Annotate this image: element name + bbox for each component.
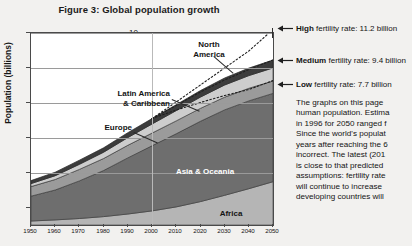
gridline-year-2000 bbox=[152, 33, 153, 225]
callout-medium-bold: Medium bbox=[296, 56, 326, 65]
body-paragraph-line-6: incorrect. The latest (201 bbox=[296, 150, 412, 160]
callout-low-rest: fertility rate: 7.7 billion bbox=[312, 80, 392, 89]
region-label-africa: Africa bbox=[196, 209, 266, 219]
x-tick-2050: 2050 bbox=[255, 227, 289, 234]
body-paragraph-line-1: The graphs on this page bbox=[296, 98, 412, 108]
region-label-latin-america-line2: & Caribbean bbox=[123, 99, 170, 108]
body-paragraph-line-4: Since the world's populat bbox=[296, 129, 412, 139]
region-label-latin-america-line1: Latin America bbox=[117, 89, 170, 98]
figure-title: Figure 3: Global population growth bbox=[0, 4, 278, 15]
body-paragraph-line-10: developing countries will bbox=[296, 192, 412, 202]
arrow-left-icon-high bbox=[277, 24, 293, 33]
region-label-north-america-line1: North bbox=[198, 40, 219, 49]
callout-high-bold: High bbox=[296, 24, 314, 33]
region-label-north-america-line2: America bbox=[193, 50, 225, 59]
region-label-asia-oceania: Asia & Oceania bbox=[150, 167, 260, 177]
callout-medium-fertility: Medium fertility rate: 9.4 billion bbox=[296, 56, 406, 65]
arrow-left-icon-medium bbox=[277, 56, 293, 65]
region-label-latin-america: Latin America & Caribbean bbox=[52, 89, 170, 108]
callout-medium-rest: fertility rate: 9.4 billion bbox=[326, 56, 406, 65]
arrow-left-icon-low bbox=[277, 80, 293, 89]
bracket-high bbox=[272, 28, 273, 38]
body-paragraph-line-8: assumptions: fertility rate bbox=[296, 171, 412, 181]
callout-high-rest: fertility rate: 11.2 billion bbox=[314, 24, 397, 33]
figure-container: Figure 3: Global population growth Popul… bbox=[0, 0, 412, 246]
body-paragraph-line-3: in 1996 for 2050 ranged f bbox=[296, 119, 412, 129]
body-paragraph-line-2: human population. Estima bbox=[296, 108, 412, 118]
region-label-north-america: North America bbox=[178, 40, 240, 59]
y-axis-title: Population (billions) bbox=[3, 23, 13, 143]
callout-low-fertility: Low fertility rate: 7.7 billion bbox=[296, 80, 392, 89]
body-paragraph-line-7: is close to that predicted bbox=[296, 161, 412, 171]
body-paragraph: The graphs on this page human population… bbox=[296, 98, 412, 203]
body-paragraph-line-5: years after reaching the 6 bbox=[296, 140, 412, 150]
body-paragraph-line-9: will continue to increase bbox=[296, 182, 412, 192]
region-label-europe: Europe bbox=[52, 123, 132, 133]
callout-high-fertility: High fertility rate: 11.2 billion bbox=[296, 24, 397, 33]
callout-low-bold: Low bbox=[296, 80, 312, 89]
